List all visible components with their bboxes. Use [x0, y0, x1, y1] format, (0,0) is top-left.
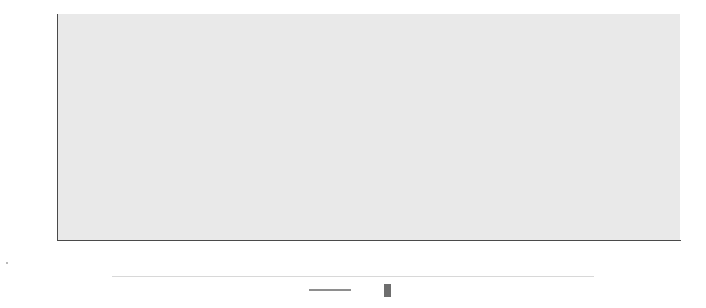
- legend-item-line: [309, 289, 358, 290]
- legend-item-bar: [384, 284, 398, 297]
- x-axis-tick-labels: [0, 246, 706, 274]
- plot-area: [58, 14, 680, 240]
- legend-line-swatch: [309, 289, 351, 290]
- legend-bar-swatch: [384, 284, 391, 297]
- legend-divider: [112, 276, 594, 277]
- line-series: [58, 14, 680, 240]
- chart-container: [0, 0, 706, 308]
- page-artifact-dot: [6, 262, 8, 264]
- chart-legend: [0, 282, 706, 298]
